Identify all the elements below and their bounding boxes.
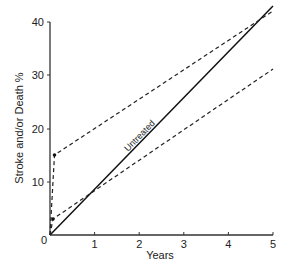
x-tick-2: 2: [136, 238, 142, 250]
upper-marker: [53, 153, 57, 157]
chart: 40 30 20 10 0 1 2 3 4 5 Years Stroke and…: [0, 0, 292, 272]
chart-svg: 40 30 20 10 0 1 2 3 4 5 Years Stroke and…: [0, 0, 292, 272]
x-tick-3: 3: [181, 238, 187, 250]
origin-label: 0: [41, 234, 47, 246]
y-tick-40: 40: [32, 16, 44, 28]
y-tick-30: 30: [32, 69, 44, 81]
x-tick-5: 5: [270, 238, 276, 250]
x-tick-4: 4: [225, 238, 231, 250]
x-axis-label: Years: [146, 249, 174, 261]
y-axis-label: Stroke and/or Death %: [13, 72, 25, 184]
lower-marker: [51, 217, 55, 221]
x-tick-1: 1: [92, 238, 98, 250]
untreated-annotation: Untreated: [122, 118, 157, 153]
y-tick-20: 20: [32, 123, 44, 135]
y-tick-10: 10: [32, 176, 44, 188]
series-untreated-line: [50, 6, 273, 235]
series-lower-dashed-line: [50, 69, 273, 235]
